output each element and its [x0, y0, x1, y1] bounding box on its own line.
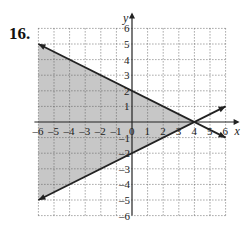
- x-tick-label: 4: [191, 125, 197, 137]
- y-axis-arrow-icon: [129, 12, 135, 18]
- y-tick-label: –4: [118, 178, 131, 190]
- y-tick-label: –6: [118, 210, 131, 222]
- coordinate-plane-graph: xy–6–5–4–3–2–10123456–6–5–4–3–2–1123456: [0, 0, 248, 225]
- y-tick-label: 4: [124, 54, 130, 66]
- x-tick-label: 1: [145, 125, 151, 137]
- x-tick-label: –6: [31, 125, 44, 137]
- x-tick-label: –2: [94, 125, 106, 137]
- y-tick-label: –5: [118, 194, 131, 206]
- x-tick-label: 2: [160, 125, 166, 137]
- y-tick-label: 5: [124, 38, 130, 50]
- x-tick-label: –5: [47, 125, 60, 137]
- x-tick-label: –4: [63, 125, 76, 137]
- y-tick-label: –3: [118, 163, 131, 175]
- x-axis-label: x: [234, 124, 241, 138]
- x-tick-label: –3: [78, 125, 91, 137]
- y-tick-label: 3: [124, 69, 130, 81]
- y-tick-label: 1: [124, 100, 130, 112]
- y-tick-label: –1: [118, 132, 130, 144]
- y-tick-label: 6: [124, 22, 130, 34]
